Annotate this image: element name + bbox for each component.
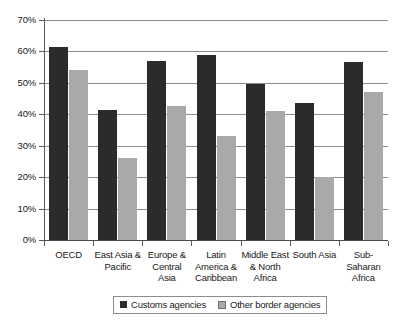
y-axis-tick-label: 10% [2, 204, 36, 214]
y-axis-tick [39, 146, 44, 147]
y-axis-tick [39, 20, 44, 21]
y-axis-tick [39, 209, 44, 210]
y-axis-tick-label: 20% [2, 172, 36, 182]
legend-label-other: Other border agencies [230, 299, 320, 310]
legend-item-customs: Customs agencies [120, 299, 206, 310]
bar-chart: 0%10%20%30%40%50%60%70% OECDEast Asia &P… [0, 0, 396, 321]
y-axis-line [44, 18, 45, 242]
y-axis-tick [39, 114, 44, 115]
bar-other [266, 111, 285, 240]
bar-other [315, 177, 334, 240]
y-axis-tick-label: 50% [2, 78, 36, 88]
bar-customs [295, 103, 314, 240]
y-axis-tick-label: 70% [2, 15, 36, 25]
bar-other [364, 92, 383, 240]
bar-customs [147, 61, 166, 240]
chart-legend: Customs agencies Other border agencies [113, 296, 327, 314]
bar-other [69, 70, 88, 240]
bar-group [295, 20, 334, 240]
plot-area [44, 20, 388, 240]
bar-customs [49, 47, 68, 240]
bar-customs [246, 84, 265, 240]
x-axis-tick [142, 241, 143, 246]
x-axis-tick [388, 241, 389, 246]
bar-customs [344, 62, 363, 240]
x-axis-category-label: Sub-SaharanAfrica [335, 249, 392, 284]
x-axis-tick [44, 241, 45, 246]
y-axis-tick-label: 0% [2, 235, 36, 245]
y-axis-tick-label: 40% [2, 109, 36, 119]
y-axis-tick [39, 83, 44, 84]
legend-item-other: Other border agencies [218, 299, 320, 310]
bar-group [246, 20, 285, 240]
x-axis-line [44, 240, 388, 241]
bar-group [197, 20, 236, 240]
x-axis-tick [290, 241, 291, 246]
legend-swatch-other-icon [218, 301, 226, 309]
legend-label-customs: Customs agencies [131, 299, 206, 310]
bar-group [49, 20, 88, 240]
bar-group [147, 20, 186, 240]
x-axis-tick [339, 241, 340, 246]
x-axis-tick [191, 241, 192, 246]
y-axis-tick-label: 30% [2, 141, 36, 151]
bar-group [344, 20, 383, 240]
y-axis-tick-label: 60% [2, 46, 36, 56]
bar-group [98, 20, 137, 240]
bar-other [118, 158, 137, 240]
y-axis-tick [39, 177, 44, 178]
bar-other [167, 106, 186, 240]
bar-customs [98, 110, 117, 240]
x-axis-tick [241, 241, 242, 246]
bar-customs [197, 55, 216, 240]
legend-swatch-customs-icon [120, 301, 127, 308]
bar-other [217, 136, 236, 240]
y-axis-tick [39, 51, 44, 52]
x-axis-tick [93, 241, 94, 246]
